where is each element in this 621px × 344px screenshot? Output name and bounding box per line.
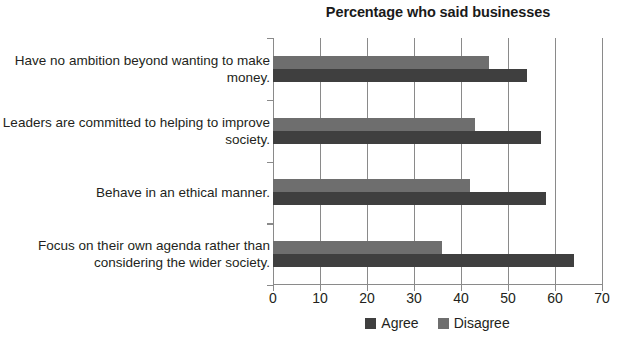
legend-swatch-icon-agree: [365, 318, 376, 329]
x-tick-label-30: 30: [394, 290, 434, 306]
bar-agree-3: [273, 254, 574, 267]
bar-agree-1: [273, 131, 541, 144]
x-tick-label-60: 60: [535, 290, 575, 306]
x-tick-label-10: 10: [300, 290, 340, 306]
bar-agree-2: [273, 192, 546, 205]
bar-disagree-1: [273, 118, 475, 131]
legend-item-agree[interactable]: Agree: [365, 315, 418, 331]
bars-layer: [273, 38, 602, 285]
bar-disagree-2: [273, 179, 470, 192]
category-label-2: Behave in an ethical manner.: [2, 184, 270, 201]
gridline-70: [602, 38, 603, 285]
legend-swatch-icon-disagree: [438, 318, 449, 329]
legend-label-disagree: Disagree: [454, 315, 510, 331]
bar-disagree-3: [273, 241, 442, 254]
category-label-1: Leaders are committed to helping to impr…: [2, 114, 270, 148]
x-tick-label-0: 0: [253, 290, 293, 306]
category-label-3: Focus on their own agenda rather than co…: [2, 237, 270, 271]
bar-agree-0: [273, 69, 527, 82]
legend-item-disagree[interactable]: Disagree: [438, 315, 510, 331]
x-tick-label-50: 50: [488, 290, 528, 306]
legend-label-agree: Agree: [381, 315, 418, 331]
chart-container: Percentage who said businesses Have no a…: [0, 0, 621, 344]
x-tick-label-70: 70: [582, 290, 621, 306]
category-label-0: Have no ambition beyond wanting to make …: [2, 52, 270, 86]
chart-title: Percentage who said businesses: [273, 4, 603, 20]
x-tick-label-40: 40: [441, 290, 481, 306]
bar-disagree-0: [273, 56, 489, 69]
chart-legend: AgreeDisagree: [273, 315, 602, 331]
x-tick-label-20: 20: [347, 290, 387, 306]
